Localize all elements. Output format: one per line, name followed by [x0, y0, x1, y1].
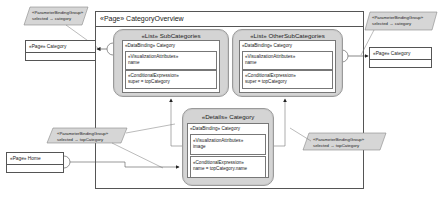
param-binding-top-right: «ParameterBindingGroup» selected → categ…: [372, 13, 423, 26]
param-binding-mid-left: «ParameterBindingGroup» selected → topCa…: [57, 129, 108, 142]
component-title: «Details» Category: [183, 112, 273, 121]
param-binding-text: selected → topCategory: [313, 143, 364, 149]
param-binding-text: selected → category: [32, 16, 83, 22]
param-binding-top-left: «ParameterBindingGroup» selected → categ…: [32, 8, 83, 21]
component-title: «List» SubCategories: [114, 31, 228, 40]
visualization-value: image: [191, 144, 265, 150]
visualization-value: name: [126, 60, 216, 66]
component-body: «DataBinding» Category «VisualizationAtt…: [122, 40, 220, 93]
conditional-value: name = topCategory.name: [191, 166, 265, 172]
param-stereotype: «ParameterBindingGroup»: [57, 131, 108, 137]
component-title: «List» OtherSubCategories: [233, 31, 342, 40]
data-binding-label: «DataBinding» Category: [123, 41, 219, 50]
visualization-attributes-box: «VisualizationAttributes» name: [125, 51, 217, 70]
component-subcategories[interactable]: «List» SubCategories «DataBinding» Categ…: [113, 29, 229, 97]
param-stereotype: «ParameterBindingGroup»: [32, 10, 83, 16]
visualization-value: name: [243, 60, 332, 66]
page-box-category-right[interactable]: «Page» Category: [369, 47, 432, 68]
conditional-expression-box: «ConditionalExpression» name = topCatego…: [190, 156, 266, 178]
page-box-title: «Page» Home: [7, 153, 63, 165]
param-binding-text: selected → category: [372, 21, 423, 27]
page-box-category-left[interactable]: «Page» Category: [25, 40, 96, 61]
visualization-attributes-box: «VisualizationAttributes» image: [190, 134, 266, 155]
data-binding-label: «DataBinding» Category: [188, 124, 268, 133]
page-box-title: «Page» Category: [26, 41, 95, 53]
param-stereotype: «ParameterBindingGroup»: [372, 15, 423, 21]
component-body: «DataBinding» Category «VisualizationAtt…: [187, 123, 269, 178]
conditional-value: super = topCategory: [126, 79, 216, 85]
param-binding-text: selected → topCategory: [57, 137, 108, 143]
page-box-home[interactable]: «Page» Home: [6, 152, 64, 173]
component-details-category[interactable]: «Details» Category «DataBinding» Categor…: [182, 108, 274, 186]
visualization-attributes-box: «VisualizationAttributes» name: [242, 51, 333, 70]
conditional-expression-box: «ConditionalExpression» super = topCateg…: [242, 70, 333, 89]
conditional-value: super = topCategory: [243, 79, 332, 85]
conditional-expression-box: «ConditionalExpression» super = topCateg…: [125, 70, 217, 89]
data-binding-label: «DataBinding» Category: [240, 41, 335, 50]
param-binding-bottom-right: «ParameterBindingGroup» selected → topCa…: [313, 135, 364, 148]
param-stereotype: «ParameterBindingGroup»: [313, 137, 364, 143]
page-box-title: «Page» Category: [370, 48, 431, 60]
component-body: «DataBinding» Category «VisualizationAtt…: [239, 40, 336, 93]
component-othersubcategories[interactable]: «List» OtherSubCategories «DataBinding» …: [232, 29, 343, 97]
